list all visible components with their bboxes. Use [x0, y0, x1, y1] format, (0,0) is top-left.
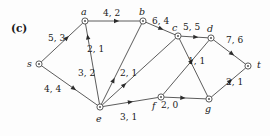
- arrowhead-s-e: [71, 85, 77, 90]
- node-label-c: c: [172, 23, 177, 33]
- arrowhead-c-d: [193, 35, 198, 39]
- node-center-d: [210, 37, 212, 39]
- edge-label-f-g: 2, 0: [161, 101, 178, 110]
- edge-label-g-t: 2, 1: [226, 78, 243, 87]
- edge-label-e-c: 2, 1: [120, 69, 137, 78]
- node-label-s: s: [27, 59, 32, 69]
- node-center-f: [160, 96, 162, 98]
- node-label-a: a: [81, 7, 87, 17]
- flow-network-figure: (c) sabcdtefg 5, 34, 44, 22, 16, 45, 57,…: [0, 0, 270, 136]
- arrowhead-f-g: [180, 96, 185, 100]
- node-center-a: [84, 20, 86, 22]
- edge-label-e-b: 3, 2: [78, 69, 95, 78]
- node-center-t: [247, 65, 249, 67]
- edge-label-b-c: 6, 4: [152, 17, 169, 26]
- node-center-e: [99, 106, 101, 108]
- edge-label-d-t: 7, 6: [226, 36, 243, 45]
- node-center-c: [177, 35, 179, 37]
- node-center-b: [142, 20, 144, 22]
- arrowhead-a-b: [114, 19, 119, 23]
- edge-label-a-b: 4, 2: [103, 9, 120, 18]
- node-label-b: b: [139, 7, 145, 17]
- edge-label-e-a: 2, 1: [87, 45, 104, 54]
- edge-label-s-a: 5, 3: [48, 34, 65, 43]
- node-center-g: [208, 98, 210, 100]
- node-label-f: f: [152, 101, 156, 111]
- arrowhead-e-f: [128, 100, 133, 104]
- edge-label-c-d: 5, 5: [183, 23, 200, 32]
- node-label-g: g: [205, 104, 211, 114]
- edge-label-f-d: 1, 1: [188, 57, 205, 66]
- node-label-d: d: [207, 24, 213, 34]
- nodes-layer: [36, 18, 251, 110]
- edge-e-b: [101, 24, 141, 104]
- edge-label-e-f: 3, 1: [120, 113, 137, 122]
- edge-label-s-e: 4, 4: [44, 85, 61, 94]
- arrowhead-d-t: [229, 51, 234, 56]
- node-label-t: t: [257, 60, 261, 70]
- node-label-e: e: [96, 114, 102, 124]
- panel-label: (c): [11, 23, 27, 34]
- edge-e-c: [102, 38, 175, 105]
- node-center-s: [38, 63, 40, 65]
- edge-f-d: [163, 40, 209, 94]
- edges-layer: [41, 21, 245, 106]
- arrowhead-e-a: [86, 34, 90, 40]
